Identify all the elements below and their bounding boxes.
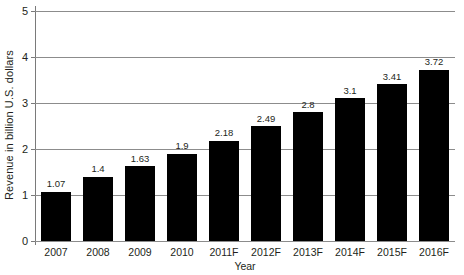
- bar[interactable]: [83, 177, 113, 241]
- bar-slot: 1.4: [83, 11, 113, 241]
- bar[interactable]: [335, 98, 365, 241]
- bar-value-label: 1.4: [83, 164, 113, 174]
- bar-slot: 3.1: [335, 11, 365, 241]
- x-tick-label-2016F: 2016F: [413, 247, 455, 258]
- bar[interactable]: [125, 166, 155, 241]
- bar-slot: 3.72: [419, 11, 449, 241]
- bar-slot: 1.07: [41, 11, 71, 241]
- bar[interactable]: [377, 84, 407, 241]
- x-tick-label-2008: 2008: [77, 247, 119, 258]
- plot-area: 012345 1.071.41.631.92.182.492.83.13.413…: [35, 11, 455, 241]
- bar-value-label: 2.18: [209, 128, 239, 138]
- y-axis-title: Revenue in billion U.S. dollars: [0, 0, 18, 250]
- bar-value-label: 1.07: [41, 179, 71, 189]
- bar-slot: 2.8: [293, 11, 323, 241]
- bar[interactable]: [293, 112, 323, 241]
- bar-chart: Revenue in billion U.S. dollars 012345 1…: [0, 0, 464, 275]
- bar-slot: 3.41: [377, 11, 407, 241]
- gridline-0: [35, 241, 455, 242]
- bar-slot: 1.63: [125, 11, 155, 241]
- y-tick-label-2: 2: [22, 144, 28, 155]
- y-axis-title-label: Revenue in billion U.S. dollars: [3, 50, 15, 200]
- bar[interactable]: [251, 126, 281, 241]
- x-axis-title: Year: [35, 261, 455, 272]
- bar[interactable]: [209, 141, 239, 241]
- bar-slot: 1.9: [167, 11, 197, 241]
- x-tick-label-2012F: 2012F: [245, 247, 287, 258]
- x-tick-label-2015F: 2015F: [371, 247, 413, 258]
- x-tick-label-2010: 2010: [161, 247, 203, 258]
- y-tick-label-0: 0: [22, 236, 28, 247]
- bar-value-label: 3.41: [377, 72, 407, 82]
- y-tick-label-1: 1: [22, 190, 28, 201]
- y-tick-label-5: 5: [22, 6, 28, 17]
- y-tick-label-3: 3: [22, 98, 28, 109]
- bar-series: 1.071.41.631.92.182.492.83.13.413.72: [35, 11, 455, 241]
- bar-value-label: 1.9: [167, 141, 197, 151]
- bar[interactable]: [419, 70, 449, 241]
- x-tick-label-2014F: 2014F: [329, 247, 371, 258]
- x-tick-label-2013F: 2013F: [287, 247, 329, 258]
- bar-value-label: 2.49: [251, 114, 281, 124]
- x-tick-label-2007: 2007: [35, 247, 77, 258]
- bar-slot: 2.49: [251, 11, 281, 241]
- bar[interactable]: [41, 192, 71, 241]
- bar[interactable]: [167, 154, 197, 241]
- x-tick-label-2011F: 2011F: [203, 247, 245, 258]
- bar-value-label: 3.72: [419, 57, 449, 67]
- bar-slot: 2.18: [209, 11, 239, 241]
- y-tick-mark-0: [31, 241, 35, 242]
- x-tick-label-2009: 2009: [119, 247, 161, 258]
- bar-value-label: 2.8: [293, 100, 323, 110]
- bar-value-label: 1.63: [125, 154, 155, 164]
- bar-value-label: 3.1: [335, 86, 365, 96]
- y-tick-label-4: 4: [22, 52, 28, 63]
- chart-title-remnant: [0, 0, 464, 3]
